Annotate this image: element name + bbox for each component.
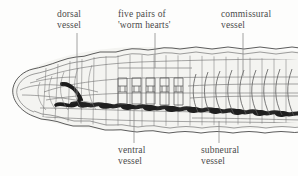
label-worm-hearts-line2: 'worm hearts' xyxy=(118,20,171,31)
earthworm-circulatory-diagram: dorsal vessel five pairs of 'worm hearts… xyxy=(0,0,298,176)
label-ventral-vessel: ventral vessel xyxy=(118,145,145,166)
label-commissural-vessel-line2: vessel xyxy=(221,20,271,31)
label-dorsal-vessel: dorsal vessel xyxy=(57,9,81,30)
label-dorsal-vessel-line2: vessel xyxy=(57,20,81,31)
label-worm-hearts: five pairs of 'worm hearts' xyxy=(118,9,171,30)
label-ventral-vessel-line2: vessel xyxy=(118,156,145,167)
label-commissural-vessel: commissural vessel xyxy=(221,9,271,30)
label-commissural-vessel-line1: commissural xyxy=(221,9,271,20)
label-subneural-vessel-line1: subneural xyxy=(201,145,239,156)
label-worm-hearts-line1: five pairs of xyxy=(118,9,171,20)
label-ventral-vessel-line1: ventral xyxy=(118,145,145,156)
worm-body-group xyxy=(13,33,298,143)
label-subneural-vessel-line2: vessel xyxy=(201,156,239,167)
label-subneural-vessel: subneural vessel xyxy=(201,145,239,166)
label-dorsal-vessel-line1: dorsal xyxy=(57,9,81,20)
